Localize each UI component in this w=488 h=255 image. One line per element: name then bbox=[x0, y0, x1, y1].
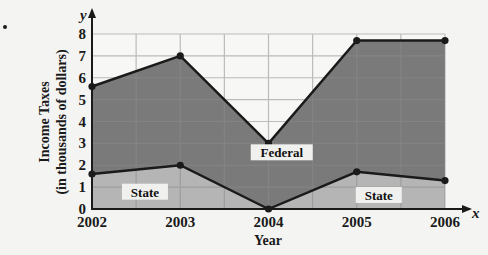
y-tick-label: 2 bbox=[79, 157, 87, 173]
y-tick-label: 5 bbox=[79, 92, 87, 108]
data-point bbox=[441, 37, 448, 44]
x-tick-label: 2004 bbox=[254, 214, 285, 230]
y-tick-label: 3 bbox=[79, 135, 87, 151]
region-label: State bbox=[122, 184, 168, 200]
y-axis-arrow bbox=[88, 8, 96, 18]
x-tick-label: 2002 bbox=[77, 214, 107, 230]
x-tick-label: 2003 bbox=[165, 214, 195, 230]
y-axis-title-line1: Income Taxes bbox=[37, 81, 52, 163]
data-point bbox=[353, 37, 360, 44]
x-tick-label: 2006 bbox=[430, 214, 461, 230]
data-point bbox=[441, 177, 448, 184]
x-tick-labels: 20022003200420052006 bbox=[77, 214, 461, 230]
region-label: State bbox=[356, 187, 402, 203]
svg-text:State: State bbox=[365, 188, 393, 203]
svg-text:Federal: Federal bbox=[260, 145, 303, 160]
y-tick-label: 1 bbox=[79, 179, 87, 195]
y-tick-labels: 012345678 bbox=[79, 26, 87, 217]
y-tick-label: 8 bbox=[79, 26, 87, 42]
data-point bbox=[177, 162, 184, 169]
region-label: Federal bbox=[251, 144, 313, 160]
data-point bbox=[177, 52, 184, 59]
y-tick-label: 7 bbox=[79, 48, 87, 64]
bullet-dot bbox=[3, 25, 7, 29]
y-tick-label: 4 bbox=[79, 114, 87, 130]
svg-text:State: State bbox=[131, 185, 159, 200]
x-tick-label: 2005 bbox=[342, 214, 372, 230]
income-tax-chart: 012345678 20022003200420052006 FederalSt… bbox=[0, 0, 488, 255]
data-point bbox=[353, 168, 360, 175]
x-axis-title: Year bbox=[254, 233, 282, 248]
y-var-label: y bbox=[78, 7, 87, 23]
x-var-label: x bbox=[471, 205, 480, 221]
y-axis-title-line2: (in thousands of dollars) bbox=[54, 49, 70, 194]
x-axis-arrow bbox=[462, 205, 472, 213]
y-tick-label: 6 bbox=[79, 70, 87, 86]
